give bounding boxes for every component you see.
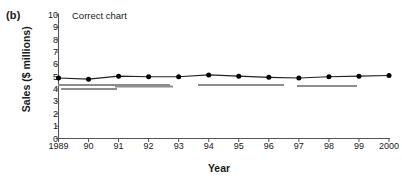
data-point-marker — [387, 73, 392, 78]
figure-panel: (b) Sales ($ millions) Year Correct char… — [0, 0, 402, 183]
data-point-marker — [266, 75, 271, 80]
data-point-marker — [326, 74, 331, 79]
plot-area — [0, 0, 402, 183]
data-point-marker — [206, 72, 211, 77]
data-point-marker — [86, 77, 91, 82]
data-point-marker — [146, 74, 151, 79]
data-point-marker — [356, 74, 361, 79]
data-point-marker — [296, 75, 301, 80]
data-point-marker — [116, 74, 121, 79]
data-point-marker — [176, 74, 181, 79]
data-series-sales — [56, 72, 392, 81]
data-point-marker — [236, 74, 241, 79]
data-point-marker — [56, 75, 61, 80]
scan-artifact-lines — [58, 85, 357, 89]
data-line — [59, 75, 390, 79]
